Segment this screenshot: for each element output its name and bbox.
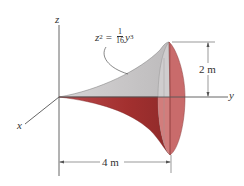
upper-surface	[59, 42, 171, 97]
z-axis-label: z	[55, 14, 59, 25]
eq-equals: =	[106, 31, 112, 43]
y-axis-label: y	[229, 90, 234, 101]
curve-equation: z2 = 1 16 y3	[95, 28, 133, 45]
height-dim-arrow-top	[207, 42, 210, 47]
length-dim-arrow-right	[166, 161, 171, 164]
x-axis	[25, 97, 59, 124]
eq-fraction: 1 16	[116, 28, 124, 45]
length-dimension-label: 4 m	[102, 157, 119, 168]
height-dim-arrow-bottom	[207, 92, 210, 97]
equation-leader	[104, 47, 128, 74]
disk-face-right	[169, 42, 185, 155]
eq-lhs-exp: 2	[99, 33, 103, 41]
eq-rhs-exp: 3	[130, 33, 134, 41]
height-dimension-label: 2 m	[199, 64, 216, 75]
lower-surface	[59, 97, 171, 155]
eq-frac-den: 16	[116, 37, 124, 45]
length-dim-arrow-left	[59, 161, 64, 164]
x-axis-label: x	[17, 120, 22, 131]
